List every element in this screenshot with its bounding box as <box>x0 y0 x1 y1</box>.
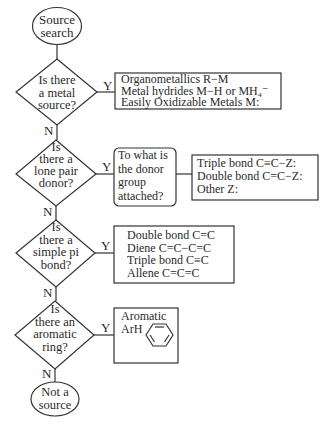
question-line: To what is <box>118 149 168 163</box>
decision-3-label: Is there a simple pi bond? <box>26 221 86 271</box>
start-line: search <box>32 26 82 39</box>
result-1-text: Organometallics R−M Metal hydrides M−H o… <box>121 74 268 109</box>
decision-line: ring? <box>25 341 85 354</box>
result-line: Easily Oxidizable Metals M: <box>121 97 268 109</box>
start-label: Source search <box>32 13 82 39</box>
question-line: attached? <box>118 190 168 204</box>
decision-line: Is <box>26 221 86 234</box>
result-line: ArH <box>121 323 166 336</box>
result-3-text: Double bond C=C Diene C=C−C=C Triple bon… <box>127 229 215 279</box>
decision-2-label: Is there a lone pair donor? <box>26 141 86 189</box>
yes-label: Y <box>102 159 111 175</box>
yes-label: Y <box>103 78 112 94</box>
decision-line: bond? <box>26 259 86 272</box>
result-line: Allene C=C=C <box>127 267 215 280</box>
decision-line: simple pi <box>26 246 86 259</box>
no-label: N <box>42 366 51 382</box>
decision-line: Is <box>25 303 85 316</box>
decision-line: source? <box>27 99 87 112</box>
decision-line: aromatic <box>25 328 85 341</box>
decision-4-label: Is there an aromatic ring? <box>25 303 85 353</box>
result-line: Triple bond C≡C <box>127 254 215 267</box>
no-label: N <box>44 123 53 139</box>
no-label: N <box>43 285 52 301</box>
end-line: source <box>31 399 79 412</box>
decision-line: donor? <box>26 177 86 189</box>
decision-1-label: Is there a metal source? <box>27 74 87 112</box>
question-2-text: To what is the donor group attached? <box>118 149 168 203</box>
no-label: N <box>43 204 52 220</box>
result-4-text: Aromatic ArH <box>121 310 166 336</box>
result-line: Other Z: <box>197 183 303 196</box>
yes-label: Y <box>101 238 110 254</box>
decision-line: Is there <box>27 74 87 87</box>
question-line: group <box>118 176 168 190</box>
result-2-text: Triple bond C≡C−Z: Double bond C=C−Z: Ot… <box>197 157 303 196</box>
end-label: Not a source <box>31 386 79 412</box>
result-line: Double bond C=C <box>127 229 215 242</box>
yes-label: Y <box>101 320 110 336</box>
question-line: the donor <box>118 163 168 177</box>
